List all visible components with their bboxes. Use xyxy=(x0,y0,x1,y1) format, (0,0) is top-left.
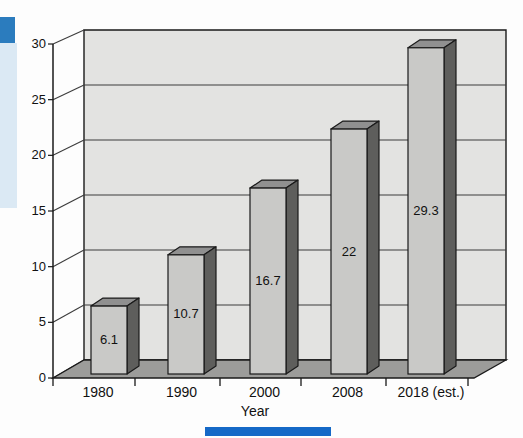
bar-value-label-1990: 10.7 xyxy=(173,306,198,321)
x-category-label-1990: 1990 xyxy=(166,384,197,400)
gridline-connector-25 xyxy=(53,85,84,100)
bar-side-2008 xyxy=(367,121,379,374)
gridline-connector-20 xyxy=(53,140,84,155)
gridline-connector-30 xyxy=(53,30,84,44)
bar-value-label-2018-est: 29.3 xyxy=(413,203,438,218)
bar-side-1980 xyxy=(127,298,139,374)
gridline-connector-5 xyxy=(53,305,84,322)
bar-value-label-2000: 16.7 xyxy=(255,273,280,288)
x-category-label-2000: 2000 xyxy=(249,384,280,400)
gridline-connector-15 xyxy=(53,195,84,211)
scanned-figure-page: 0510152025306.110.716.72229.319801990200… xyxy=(0,0,523,438)
bar-side-2000 xyxy=(286,180,298,374)
y-tick-label-30: 30 xyxy=(32,36,46,51)
bar-value-label-2008: 22 xyxy=(342,244,356,259)
y-tick-label-0: 0 xyxy=(39,370,46,385)
y-tick-label-15: 15 xyxy=(32,203,46,218)
gridline-connector-10 xyxy=(53,250,84,267)
y-tick-label-5: 5 xyxy=(39,314,46,329)
x-category-label-1980: 1980 xyxy=(82,384,113,400)
bar-side-2018-est xyxy=(444,40,456,374)
x-category-label-2018-est: 2018 (est.) xyxy=(398,384,465,400)
x-axis-title: Year xyxy=(241,403,270,419)
3d-bar-chart: 0510152025306.110.716.72229.319801990200… xyxy=(0,0,523,438)
bottom-accent-bar xyxy=(205,427,331,436)
y-tick-label-20: 20 xyxy=(32,147,46,162)
bar-side-1990 xyxy=(204,247,216,374)
y-tick-label-25: 25 xyxy=(32,92,46,107)
y-tick-label-10: 10 xyxy=(32,259,46,274)
bar-value-label-1980: 6.1 xyxy=(100,332,118,347)
x-category-label-2008: 2008 xyxy=(332,384,363,400)
